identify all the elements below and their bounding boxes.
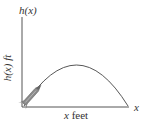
x-axis-below-label: x feet [64, 109, 88, 121]
x-axis-end-label: x [134, 101, 139, 113]
x-axis-unit: feet [69, 109, 88, 121]
y-axis-side-label: h(x) ft [1, 55, 13, 82]
y-axis-top-label: h(x) [19, 4, 37, 16]
trajectory-curve [24, 65, 128, 106]
